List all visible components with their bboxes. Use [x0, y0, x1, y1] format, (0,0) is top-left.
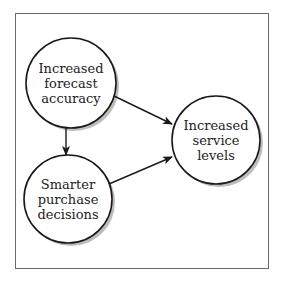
- label-line: decisions: [37, 207, 98, 222]
- label-line: levels: [197, 148, 235, 163]
- label-smarter-purchase-decisions: Smarter purchase decisions: [24, 155, 112, 243]
- label-line: service: [192, 133, 239, 148]
- edge-forecast-to-service: [114, 96, 172, 124]
- label-line: Increased: [183, 118, 248, 133]
- edge-purchase-to-service: [109, 157, 172, 184]
- label-increased-service-levels: Increased service levels: [172, 96, 260, 184]
- label-line: Smarter: [41, 177, 95, 192]
- label-line: forecast: [44, 76, 97, 91]
- label-forecast-accuracy: Increased forecast accuracy: [26, 38, 116, 128]
- label-line: accuracy: [41, 91, 100, 106]
- label-line: purchase: [38, 192, 99, 207]
- label-line: Increased: [38, 61, 103, 76]
